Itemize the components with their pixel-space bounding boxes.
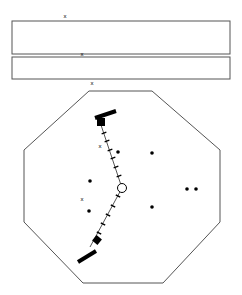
schematic-figure: xxxxx xyxy=(0,0,242,295)
dot-4 xyxy=(150,151,154,155)
x-marker: x xyxy=(64,13,67,19)
dot-7 xyxy=(194,187,198,191)
dot-3 xyxy=(116,150,120,154)
tick-mark xyxy=(105,140,110,142)
diagram-canvas: xxxxx xyxy=(0,0,242,295)
upper-end-bar xyxy=(95,111,116,118)
scatter-dots-group xyxy=(87,150,198,213)
tick-mark xyxy=(108,149,113,151)
x-marker: x xyxy=(99,143,102,149)
lower-filled-square xyxy=(92,235,102,245)
dot-2 xyxy=(87,209,91,213)
dot-6 xyxy=(185,187,189,191)
lower-end-bar xyxy=(78,251,96,262)
upper-rectangle xyxy=(12,21,230,54)
circle-node xyxy=(118,184,127,193)
upper-filled-square xyxy=(97,118,105,126)
filled-squares-group xyxy=(92,118,105,245)
lower-rectangle xyxy=(12,57,230,79)
tick-mark xyxy=(102,132,107,134)
x-markers-group: xxxxx xyxy=(64,13,102,202)
x-marker: x xyxy=(81,196,84,202)
dot-5 xyxy=(150,205,154,209)
x-marker: x xyxy=(91,80,94,86)
dot-1 xyxy=(88,179,92,183)
x-marker: x xyxy=(81,51,84,57)
